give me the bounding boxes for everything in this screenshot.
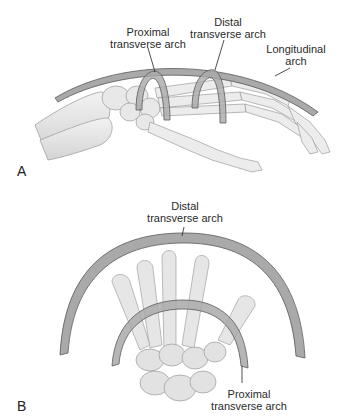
label-line: transverse arch xyxy=(204,400,294,412)
label-line: transverse arch xyxy=(140,212,230,224)
panel-a-finger-bones xyxy=(148,78,330,172)
hand-arches-figure: Proximal transverse arch Distal transver… xyxy=(0,0,346,420)
panel-a-forearm-bones xyxy=(35,92,112,160)
label-line: Distal xyxy=(140,200,230,212)
panel-a-letter: A xyxy=(17,163,26,179)
panel-b-distal-arch-band xyxy=(60,233,305,358)
panel-a-distal-arch-label: Distal transverse arch xyxy=(183,16,273,40)
panel-a-proximal-arch-label: Proximal transverse arch xyxy=(103,26,193,50)
panel-b-letter: B xyxy=(17,398,26,414)
label-line: arch xyxy=(258,55,334,67)
label-line: Proximal xyxy=(204,388,294,400)
label-line: Longitudinal xyxy=(258,43,334,55)
label-line: transverse arch xyxy=(183,28,273,40)
label-line: Distal xyxy=(183,16,273,28)
label-line: transverse arch xyxy=(103,38,193,50)
panel-a-longitudinal-arch-label: Longitudinal arch xyxy=(258,43,334,67)
label-line: Proximal xyxy=(103,26,193,38)
panel-b-distal-arch-label: Distal transverse arch xyxy=(140,200,230,224)
panel-b-proximal-arch-label: Proximal transverse arch xyxy=(204,388,294,412)
